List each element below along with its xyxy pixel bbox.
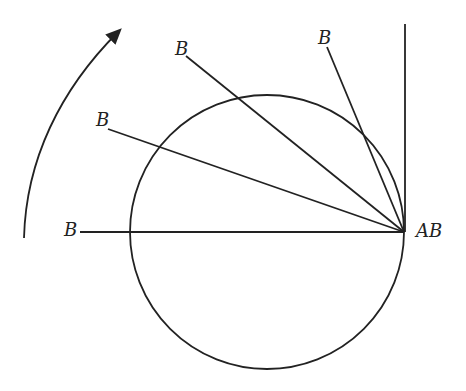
diagram-canvas: B B B B AB: [0, 0, 466, 391]
rotation-arrow-icon: [24, 32, 118, 238]
label-ab: AB: [414, 220, 442, 241]
label-b1: B: [63, 219, 77, 240]
line-b2: [108, 129, 404, 232]
label-b2: B: [95, 109, 109, 130]
line-b4: [327, 47, 404, 232]
label-b3: B: [174, 38, 188, 59]
label-b4: B: [317, 27, 331, 48]
